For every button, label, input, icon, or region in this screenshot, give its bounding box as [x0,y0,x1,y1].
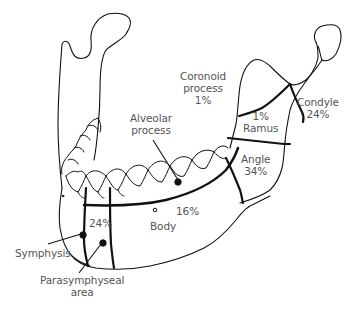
left-ramus-outline [58,13,131,188]
lower-border [72,196,270,269]
alveolar-pointer-line [153,140,178,180]
mandible-drawing [0,0,346,309]
foramen-dot-left [62,195,64,197]
parasymphyseal-pointer-dot [100,240,106,246]
coronoid-label: Coronoid process 1% [180,70,226,106]
alveolar-pointer-dot [175,179,181,185]
ramus-label: 1% Ramus [243,110,278,134]
condyle-label: Condyle 24% [297,96,339,120]
right-ramus-posterior [285,42,318,142]
symphysis-line [84,188,88,266]
symphysis-pointer-line [48,234,81,244]
parasymphyseal-pct-label: 24% [89,217,112,229]
body-label: Body [150,220,176,232]
alveolar-label: Alveolar process [130,112,172,136]
angle-label: Angle 34% [241,153,270,177]
ramus-angle-boundary [228,138,290,144]
mental-foramen-icon [153,208,157,212]
symphysis-label: Symphysis [15,247,71,259]
body-pct-label: 16% [176,205,199,217]
mandible-diagram: Coronoid process 1% Condyle 24% 1% Ramus… [0,0,346,309]
alveolar-body-boundary [84,148,238,205]
parasymphyseal-label: Parasymphyseal area [40,274,124,298]
left-ramus-inner [94,128,98,160]
symphysis-pointer-dot [80,232,86,238]
